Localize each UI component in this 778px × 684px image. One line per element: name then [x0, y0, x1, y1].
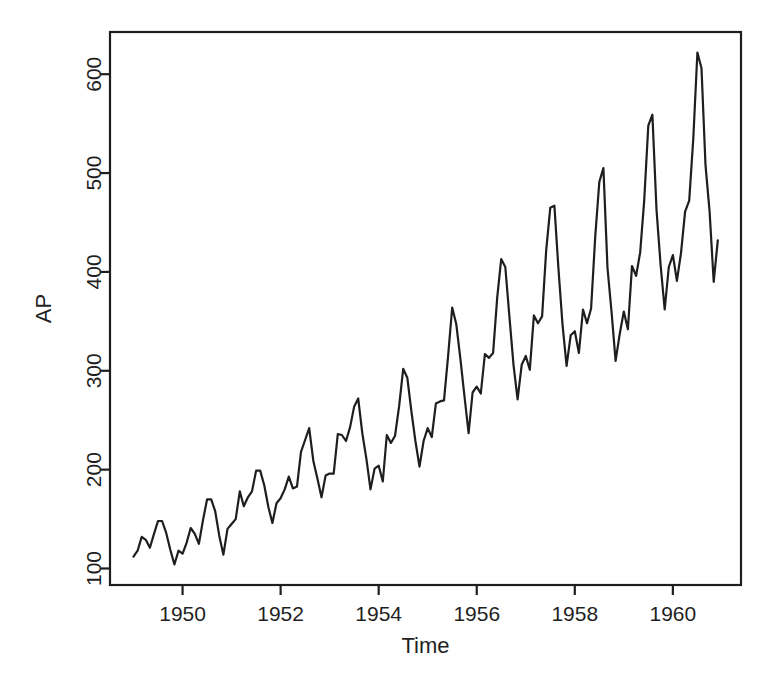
- y-tick-label: 400: [82, 254, 105, 289]
- x-tick-label: 1952: [257, 602, 304, 625]
- x-tick-label: 1954: [355, 602, 402, 625]
- y-axis-title: AP: [31, 294, 56, 323]
- x-tick-label: 1956: [453, 602, 500, 625]
- y-tick-label: 500: [82, 156, 105, 191]
- time-series-plot: 195019521954195619581960 100200300400500…: [0, 0, 778, 684]
- x-axis: 195019521954195619581960: [159, 585, 696, 625]
- y-axis: 100200300400500600: [82, 57, 110, 586]
- figure-page: 195019521954195619581960 100200300400500…: [0, 0, 778, 684]
- plot-border: [110, 32, 741, 585]
- y-tick-label: 600: [82, 57, 105, 92]
- y-tick-label: 300: [82, 353, 105, 388]
- x-axis-title: Time: [401, 633, 449, 658]
- x-tick-label: 1960: [649, 602, 696, 625]
- y-tick-label: 100: [82, 551, 105, 586]
- x-tick-label: 1950: [159, 602, 206, 625]
- y-tick-label: 200: [82, 452, 105, 487]
- series-line: [134, 53, 718, 565]
- x-tick-label: 1958: [551, 602, 598, 625]
